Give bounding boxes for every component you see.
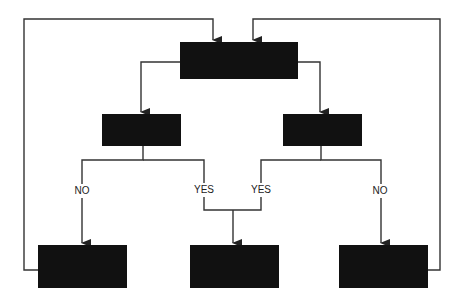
top-to-left-connector — [141, 62, 180, 112]
outcome-box-bottom-left — [38, 245, 127, 288]
outcome-box-bottom-right — [339, 245, 428, 288]
outcome-box-bottom-center — [190, 245, 279, 288]
edge-label-left-no: NO — [75, 184, 90, 198]
edge-label-left-yes: YES — [194, 183, 214, 197]
left-branch-connector — [82, 146, 143, 243]
process-box-top — [180, 42, 298, 79]
flowchart-canvas — [0, 0, 464, 299]
top-to-right-connector — [298, 62, 320, 112]
right-yes-connector — [233, 160, 321, 210]
decision-box-left — [102, 114, 181, 146]
edge-label-right-yes: YES — [251, 183, 271, 197]
left-yes-connector — [143, 160, 233, 210]
edge-label-right-no: NO — [373, 184, 388, 198]
decision-box-right — [283, 114, 362, 146]
